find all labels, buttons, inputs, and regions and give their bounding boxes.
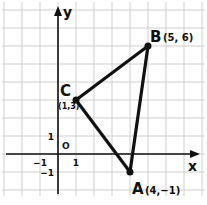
y-tick-label: −1 bbox=[40, 168, 54, 178]
point-c-coordinates: (1,3) bbox=[58, 102, 79, 111]
segment-ab bbox=[130, 46, 148, 172]
point-a-label: A bbox=[132, 180, 144, 198]
point-c-label: C bbox=[60, 82, 71, 100]
point-a bbox=[127, 169, 134, 176]
x-axis-label: x bbox=[188, 158, 197, 174]
x-axis-arrow-icon bbox=[190, 150, 200, 158]
origin-label: O bbox=[62, 141, 70, 151]
point-a-coordinates: (4,−1) bbox=[145, 185, 180, 196]
y-axis-label: y bbox=[63, 4, 72, 20]
y-tick-label: 1 bbox=[48, 132, 54, 142]
coordinate-plane-diagram: x y O −111−1 A(4,−1)B(5, 6)C(1,3) bbox=[0, 0, 207, 205]
point-b-coordinates: (5, 6) bbox=[163, 32, 193, 43]
y-axis-arrow-icon bbox=[54, 6, 62, 16]
x-tick-label: 1 bbox=[73, 158, 79, 168]
x-tick-label: −1 bbox=[33, 158, 47, 168]
point-b-label: B bbox=[150, 28, 161, 46]
